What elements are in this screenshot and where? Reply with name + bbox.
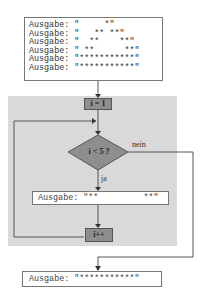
yes-branch-label: ja <box>101 174 107 183</box>
condition-label: i < 5 ? <box>82 147 116 156</box>
increment-label: i++ <box>93 230 104 239</box>
loop-output-text: Ausgabe: "** **" <box>38 194 168 203</box>
loop-output-box: Ausgabe: "** **" <box>32 191 169 205</box>
increment-step: i++ <box>85 228 113 242</box>
bottom-output-text: Ausgabe: "***********" <box>29 275 161 284</box>
bottom-output-box: Ausgabe: "***********" <box>22 271 162 287</box>
init-step: i = 1 <box>84 98 112 110</box>
no-branch-label: nein <box>132 140 146 149</box>
init-label: i = 1 <box>91 99 106 108</box>
